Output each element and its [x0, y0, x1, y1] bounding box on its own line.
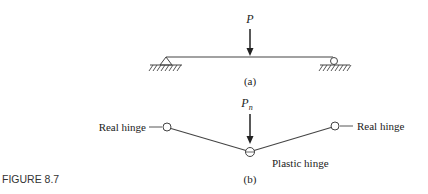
caption-a: (a): [244, 75, 257, 88]
real-hinge-left-label: Real hinge: [99, 121, 146, 133]
real-hinge-right-label: Real hinge: [357, 120, 404, 132]
figure-canvas: P: [0, 0, 428, 194]
figure-label: FIGURE 8.7: [2, 173, 59, 185]
load-label-pn: Pn: [240, 96, 252, 112]
real-hinge-left-icon: [163, 123, 171, 131]
plastic-hinge-label: Plastic hinge: [272, 157, 329, 169]
beam-segment-right: [254, 128, 331, 151]
load-label-p: P: [245, 12, 254, 26]
load-arrow-icon: [247, 29, 254, 56]
pin-support-icon: [149, 57, 182, 71]
real-hinge-right-icon: [331, 122, 339, 130]
roller-support-icon: [319, 58, 351, 72]
part-a-beam-diagram: P: [149, 12, 351, 88]
load-arrow-icon: [247, 114, 254, 144]
part-b-mechanism-diagram: Pn Real hinge Real hinge Plastic hinge (…: [99, 96, 405, 186]
caption-b: (b): [244, 173, 257, 186]
beam-segment-left: [171, 129, 246, 151]
